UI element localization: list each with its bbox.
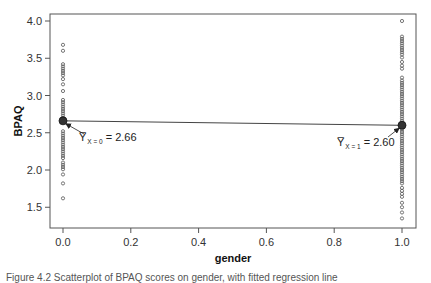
x-tick-label: 0.4 bbox=[191, 236, 206, 248]
y-tick-label: 2.5 bbox=[27, 127, 42, 139]
mean-point bbox=[59, 117, 67, 125]
y-tick-label: 2.0 bbox=[27, 164, 42, 176]
mean-subscript: X = 0 bbox=[87, 138, 103, 145]
y-axis-title: BPAQ bbox=[12, 105, 24, 136]
x-tick-label: 0.6 bbox=[259, 236, 274, 248]
x-tick-label: 0.2 bbox=[123, 236, 138, 248]
mean-value: = 2.60 bbox=[364, 136, 395, 148]
y-tick-label: 4.0 bbox=[27, 15, 42, 27]
x-tick-label: 0.0 bbox=[55, 236, 70, 248]
x-tick-label: 0.8 bbox=[327, 236, 342, 248]
mean-value: = 2.66 bbox=[106, 131, 137, 143]
figure-caption: Figure 4.2 Scatterplot of BPAQ scores on… bbox=[6, 272, 338, 283]
y-tick-label: 3.0 bbox=[27, 90, 42, 102]
x-tick-label: 1.0 bbox=[394, 236, 409, 248]
y-axis: 1.52.02.53.03.54.0 bbox=[27, 15, 50, 213]
y-tick-label: 3.5 bbox=[27, 52, 42, 64]
mean-symbol: Y̅ bbox=[337, 136, 345, 148]
x-axis-title: gender bbox=[215, 252, 252, 264]
y-tick-label: 1.5 bbox=[27, 201, 42, 213]
mean-subscript: X = 1 bbox=[345, 143, 361, 150]
x-axis: 0.00.20.40.60.81.0 bbox=[55, 228, 409, 248]
mean-point bbox=[398, 121, 406, 129]
mean-symbol: Y̅ bbox=[79, 131, 87, 143]
